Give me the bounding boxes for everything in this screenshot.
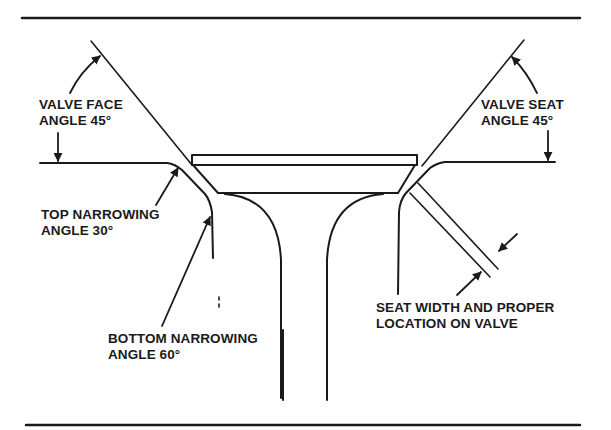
valve-seat-label: VALVE SEAT ANGLE 45° xyxy=(481,97,564,129)
valve-seat-arrow xyxy=(512,57,537,93)
valve-face-left xyxy=(193,165,415,193)
seat-width-label: SEAT WIDTH AND PROPER LOCATION ON VALVE xyxy=(376,300,554,332)
valve-head-margin xyxy=(192,155,417,165)
right-head-surface xyxy=(398,162,555,294)
valve-seat-diagram: VALVE FACE ANGLE 45° VALVE SEAT ANGLE 45… xyxy=(0,0,611,430)
top-narrowing-label-line1: TOP NARROWING xyxy=(41,207,160,223)
top-narrowing-label: TOP NARROWING ANGLE 30° xyxy=(41,207,160,239)
seat-width-arrow-upper xyxy=(499,234,517,251)
seat-width-label-line1: SEAT WIDTH AND PROPER xyxy=(376,300,554,316)
valve-face-label-line2: ANGLE 45° xyxy=(39,113,123,129)
seat-width-arrow-lower xyxy=(457,272,481,295)
top-narrowing-arrow xyxy=(156,168,178,205)
valve-seat-label-line1: VALVE SEAT xyxy=(481,97,564,113)
top-narrowing-label-line2: ANGLE 30° xyxy=(41,223,160,239)
valve-face-arrow xyxy=(70,56,100,93)
valve-neck-left xyxy=(225,194,281,398)
bottom-narrowing-label: BOTTOM NARROWING ANGLE 60° xyxy=(108,331,258,363)
valve-neck-right xyxy=(327,194,383,398)
valve-face-label: VALVE FACE ANGLE 45° xyxy=(39,97,123,129)
seat-width-line-1 xyxy=(418,183,498,269)
bottom-narrowing-label-line2: ANGLE 60° xyxy=(108,347,258,363)
bottom-narrowing-label-line1: BOTTOM NARROWING xyxy=(108,331,258,347)
seat-width-line-2 xyxy=(410,193,490,277)
valve-face-label-line1: VALVE FACE xyxy=(39,97,123,113)
seat-width-label-line2: LOCATION ON VALVE xyxy=(376,316,554,332)
bottom-narrowing-arrow xyxy=(162,217,210,326)
valve-seat-label-line2: ANGLE 45° xyxy=(481,113,564,129)
